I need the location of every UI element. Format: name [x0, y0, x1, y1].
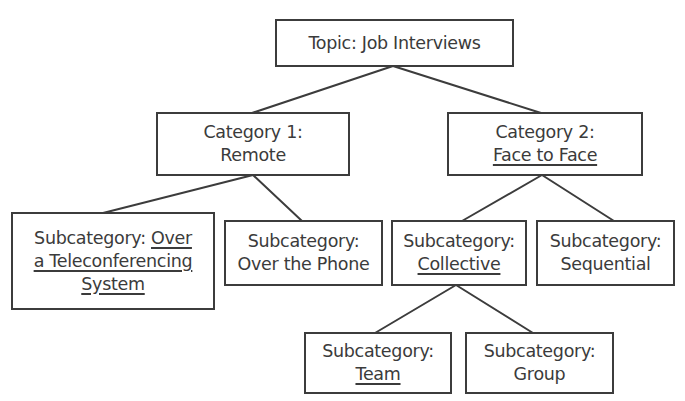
edge-category-1-phone [253, 175, 302, 221]
node-label-underlined: Over [151, 228, 192, 248]
node-subcategory-group: Subcategory: Group [465, 332, 614, 394]
node-category-2-face-to-face: Category 2: Face to Face [447, 112, 643, 176]
node-subcategory-over-the-phone: Subcategory: Over the Phone [224, 220, 383, 286]
edge-collective-group [456, 285, 533, 333]
node-label-line-2: Collective [418, 253, 501, 276]
node-label: Topic: Job Interviews [308, 32, 480, 55]
node-label-line-1: Subcategory: [322, 340, 434, 363]
node-subcategory-team: Subcategory: Team [304, 332, 452, 394]
node-subcategory-collective: Subcategory: Collective [391, 220, 527, 286]
edge-topic-category-2 [393, 66, 541, 113]
node-label-line-2: Face to Face [493, 144, 597, 167]
node-label-line-3: System [81, 273, 144, 296]
edge-category-2-collective [462, 175, 542, 221]
node-label-line-2: a Teleconferencing [34, 250, 193, 273]
node-subcategory-sequential: Subcategory: Sequential [536, 220, 675, 286]
node-category-1-remote: Category 1: Remote [156, 112, 350, 176]
edge-category-1-teleconferencing [103, 175, 253, 213]
node-subcategory-teleconferencing: Subcategory: Over a Teleconferencing Sys… [11, 212, 215, 310]
node-label-line-1: Category 1: [203, 121, 302, 144]
node-label-prefix: Subcategory: [34, 228, 146, 248]
node-label-line-2: Team [355, 363, 400, 386]
node-label-line-1: Subcategory: [550, 230, 662, 253]
node-label-line-2: Sequential [560, 253, 650, 276]
node-label-line-1: Category 2: [495, 121, 594, 144]
node-topic-job-interviews: Topic: Job Interviews [275, 19, 514, 67]
edge-collective-team [375, 285, 456, 333]
node-label-line-2: Remote [220, 144, 286, 167]
node-label-line-1: Subcategory: [403, 230, 515, 253]
edge-topic-category-1 [252, 66, 393, 113]
node-label-line-1: Subcategory: [484, 340, 596, 363]
node-label-line-1: Subcategory: [248, 230, 360, 253]
node-label-line-2: Over the Phone [238, 253, 370, 276]
node-label-line-1: Subcategory: Over [34, 227, 192, 250]
edge-category-2-sequential [542, 175, 614, 221]
node-label-line-2: Group [514, 363, 566, 386]
